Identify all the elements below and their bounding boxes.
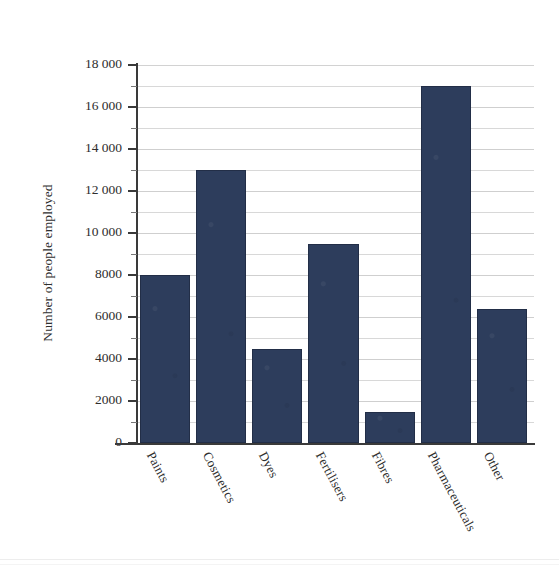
gridline-minor (137, 128, 534, 129)
y-tick-major (128, 316, 137, 318)
x-tick-label-cosmetics: Cosmetics (199, 449, 239, 506)
y-tick-minor (131, 212, 137, 213)
y-tick-minor (131, 422, 137, 423)
y-tick-minor (131, 170, 137, 171)
y-tick-label: 0 (54, 434, 122, 450)
y-tick-label: 2000 (54, 392, 122, 408)
y-tick-label: 14 000 (54, 140, 122, 156)
y-tick-major (128, 232, 137, 234)
gridline-major (137, 149, 534, 150)
x-axis-category-labels: PaintsCosmeticsDyesFertilisersFibresPhar… (137, 449, 537, 565)
y-tick-label: 4000 (54, 350, 122, 366)
bar-fibres (365, 412, 415, 444)
y-tick-label: 8000 (54, 266, 122, 282)
y-tick-major (128, 64, 137, 66)
y-tick-major (128, 358, 137, 360)
x-tick-label-dyes: Dyes (255, 449, 282, 481)
y-tick-label: 16 000 (54, 98, 122, 114)
y-tick-major (128, 400, 137, 402)
y-tick-major (128, 106, 137, 108)
y-tick-major (128, 442, 137, 444)
gridline-major (137, 107, 534, 108)
y-tick-minor (131, 296, 137, 297)
y-axis-tick-labels: 0200040006000800010 00012 00014 00016 00… (50, 0, 122, 565)
x-tick-label-paints: Paints (143, 449, 173, 486)
y-tick-minor (131, 254, 137, 255)
y-tick-label: 12 000 (54, 182, 122, 198)
bar-pharmaceuticals (421, 86, 471, 443)
gridline-minor (137, 86, 534, 87)
y-tick-major (128, 148, 137, 150)
bar-fertilisers (308, 244, 358, 444)
chart-figure: Number of people employed 02000400060008… (0, 0, 559, 565)
y-tick-minor (131, 380, 137, 381)
scan-artifact-line (0, 559, 559, 560)
y-tick-label: 6000 (54, 308, 122, 324)
x-axis-line (115, 443, 535, 445)
y-tick-label: 10 000 (54, 224, 122, 240)
x-tick-label-fibres: Fibres (368, 449, 398, 486)
y-tick-major (128, 190, 137, 192)
bar-dyes (252, 349, 302, 444)
plot-area (137, 65, 530, 443)
gridline-major (137, 65, 534, 66)
y-tick-minor (131, 338, 137, 339)
y-tick-label: 18 000 (54, 56, 122, 72)
bar-cosmetics (196, 170, 246, 443)
x-tick-label-pharmaceuticals: Pharmaceuticals (424, 449, 480, 534)
y-tick-major (128, 274, 137, 276)
y-tick-minor (131, 128, 137, 129)
x-tick-label-fertilisers: Fertilisers (311, 449, 351, 504)
y-tick-minor (131, 86, 137, 87)
x-tick-label-other: Other (480, 449, 508, 484)
bar-paints (140, 275, 190, 443)
bar-other (477, 309, 527, 443)
